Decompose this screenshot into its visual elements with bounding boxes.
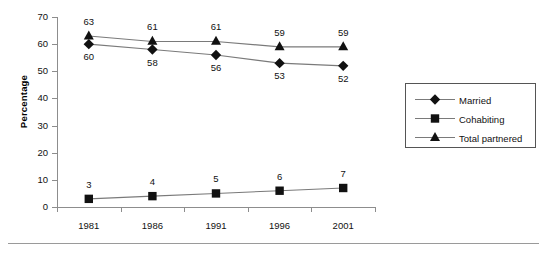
- data-point-marker: [84, 30, 94, 39]
- data-point-marker: [339, 184, 347, 192]
- square-marker-icon: [415, 112, 455, 126]
- data-point-marker: [275, 187, 283, 195]
- data-point-marker: [148, 192, 156, 200]
- data-point-marker: [212, 189, 220, 197]
- data-point-marker: [274, 58, 284, 68]
- legend-item-label: Married: [459, 95, 491, 106]
- legend-item-label: Total partnered: [459, 133, 522, 144]
- data-point-marker: [85, 195, 93, 203]
- triangle-marker-icon: [415, 131, 455, 145]
- data-point-value-label: 5: [196, 173, 236, 184]
- legend-item-total-partnered[interactable]: Total partnered: [415, 130, 522, 146]
- data-point-value-label: 61: [132, 21, 172, 32]
- data-point-value-label: 53: [260, 70, 300, 81]
- footer-rule: [8, 243, 539, 244]
- data-point-value-label: 59: [260, 27, 300, 38]
- data-point-marker: [338, 41, 348, 50]
- data-point-value-label: 4: [132, 176, 172, 187]
- data-point-value-label: 59: [323, 27, 363, 38]
- data-point-value-label: 61: [196, 21, 236, 32]
- data-point-marker: [84, 39, 94, 49]
- data-point-value-label: 60: [69, 51, 109, 62]
- chart-legend: MarriedCohabitingTotal partnered: [405, 83, 536, 148]
- data-point-value-label: 56: [196, 62, 236, 73]
- data-point-marker: [147, 44, 157, 54]
- legend-item-married[interactable]: Married: [415, 92, 491, 108]
- legend-item-label: Cohabiting: [459, 114, 504, 125]
- data-point-marker: [211, 36, 221, 45]
- data-point-marker: [275, 41, 285, 50]
- diamond-marker-icon: [415, 93, 455, 107]
- legend-item-cohabiting[interactable]: Cohabiting: [415, 111, 504, 127]
- data-point-marker: [338, 61, 348, 71]
- data-point-value-label: 6: [260, 171, 300, 182]
- data-point-value-label: 7: [323, 168, 363, 179]
- data-point-marker: [211, 50, 221, 60]
- data-point-value-label: 63: [69, 16, 109, 27]
- data-point-value-label: 52: [323, 73, 363, 84]
- data-point-value-label: 58: [132, 57, 172, 68]
- data-point-marker: [147, 36, 157, 45]
- data-point-value-label: 3: [69, 179, 109, 190]
- chart-figure: Percentage 010203040506070 1981198619911…: [0, 0, 547, 258]
